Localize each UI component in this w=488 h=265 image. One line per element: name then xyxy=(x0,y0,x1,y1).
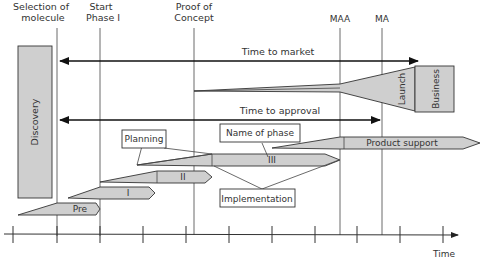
implementation-label: Implementation xyxy=(221,194,292,204)
callout-implementation: Implementation xyxy=(214,160,339,207)
discovery-label: Discovery xyxy=(29,98,40,145)
time-to-approval-arrow: Time to approval xyxy=(60,105,380,120)
phase-product-support: Product support xyxy=(272,137,480,149)
callout-name-of-phase: Name of phase xyxy=(220,124,300,157)
time-to-market-arrow: Time to market xyxy=(60,46,418,61)
pre-label: Pre xyxy=(73,204,88,214)
phase-3-label: III xyxy=(268,155,276,165)
phase-2-label: II xyxy=(180,172,185,182)
phase-1-label: I xyxy=(127,188,130,198)
milestone-lines xyxy=(57,28,382,236)
phase-3: III xyxy=(137,154,340,166)
phase-1: I xyxy=(68,187,155,199)
label-maa: MAA xyxy=(330,14,351,24)
label-selection-line2: molecule xyxy=(21,12,64,23)
milestone-labels: Selection of molecule Start Phase I Proo… xyxy=(13,1,390,24)
label-start-phase-line1: Start xyxy=(89,1,112,12)
label-poc-line2: Concept xyxy=(174,12,214,23)
label-start-phase-line2: Phase I xyxy=(86,12,120,23)
label-poc-line1: Proof of xyxy=(176,1,213,12)
phase-diagram: Selection of molecule Start Phase I Proo… xyxy=(0,0,488,265)
product-support-label: Product support xyxy=(366,138,438,148)
time-axis-label: Time xyxy=(432,249,455,259)
launch-label: Launch xyxy=(397,73,407,106)
name-of-phase-label: Name of phase xyxy=(226,128,295,138)
time-axis: Time xyxy=(4,226,458,259)
label-selection-line1: Selection of xyxy=(13,1,70,12)
business-label: Business xyxy=(431,69,441,109)
planning-label: Planning xyxy=(125,134,164,144)
phase-2: II xyxy=(100,171,212,183)
label-ma: MA xyxy=(375,14,390,24)
time-to-approval-label: Time to approval xyxy=(239,105,320,116)
time-to-market-label: Time to market xyxy=(241,46,315,57)
business-block: Business xyxy=(415,66,454,112)
phase-pre: Pre xyxy=(18,203,100,215)
discovery-block: Discovery xyxy=(18,46,52,198)
